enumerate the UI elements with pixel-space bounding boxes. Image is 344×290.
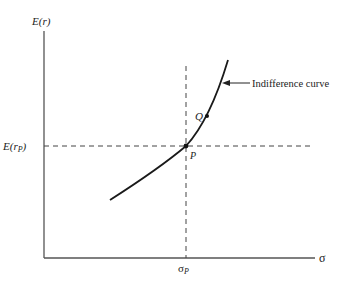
y-axis-label: E(r) bbox=[31, 15, 51, 28]
point-q-label: Q bbox=[195, 110, 203, 122]
point-p-label: P bbox=[189, 150, 196, 161]
indifference-curve bbox=[110, 60, 228, 200]
indifference-curve-diagram: E(r) σ E(rP) σP P Q Indifference curve bbox=[0, 0, 344, 290]
indifference-curve-label: Indifference curve bbox=[252, 78, 329, 89]
arrow-head-icon bbox=[222, 80, 230, 86]
point-p bbox=[184, 144, 189, 149]
point-q bbox=[205, 114, 209, 118]
x-axis-label: σ bbox=[319, 251, 326, 265]
expected-return-p-label: E(rP) bbox=[2, 140, 27, 154]
sigma-p-label: σP bbox=[178, 262, 189, 276]
